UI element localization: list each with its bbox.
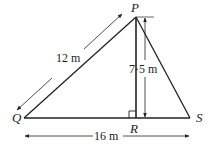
vertex-label-q: Q [12, 110, 22, 125]
vertex-label-s: S [196, 110, 203, 125]
side-qp [24, 17, 136, 118]
dimension-arrow-qp-upper [84, 14, 122, 49]
measurement-pr: 7·5 m [129, 62, 158, 76]
vertex-label-r: R [129, 121, 138, 136]
measurement-qp: 12 m [56, 51, 81, 65]
measurement-qs: 16 m [94, 129, 119, 143]
triangle-diagram: P Q R S 12 m 7·5 m 16 m [0, 0, 213, 150]
right-angle-marker [129, 111, 136, 118]
vertex-label-p: P [130, 0, 139, 15]
dimension-arrow-qp-lower [17, 78, 52, 110]
